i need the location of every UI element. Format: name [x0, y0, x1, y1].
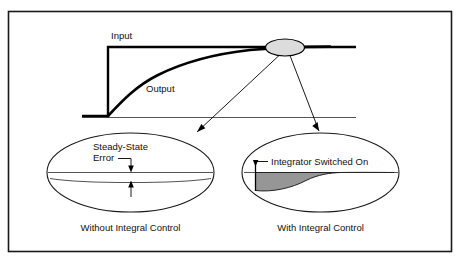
- integrator-switched-on-label: Integrator Switched On: [271, 156, 368, 167]
- figure-root: Input Output Steady-State Error Without …: [0, 0, 460, 262]
- steady-state-error-label-line1: Steady-State: [93, 141, 148, 152]
- output-label: Output: [146, 83, 175, 94]
- steady-state-error-label-line2: Error: [93, 152, 114, 163]
- right-detail-caption: With Integral Control: [277, 222, 364, 233]
- integral-control-diagram: Input Output Steady-State Error Without …: [0, 0, 460, 262]
- magnifier-ellipse: [266, 39, 305, 56]
- left-detail-caption: Without Integral Control: [81, 222, 181, 233]
- input-label: Input: [111, 30, 132, 41]
